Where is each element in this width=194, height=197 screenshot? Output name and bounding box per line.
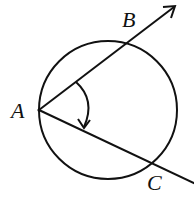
ray-ac	[39, 110, 194, 184]
label-b: B	[122, 7, 135, 32]
angle-arrowhead-icon	[78, 119, 90, 128]
point-a-dot	[37, 108, 40, 111]
label-a: A	[9, 98, 25, 123]
label-c: C	[147, 170, 162, 195]
inscribed-angle-diagram: A B C	[0, 0, 194, 197]
circle	[39, 41, 177, 179]
